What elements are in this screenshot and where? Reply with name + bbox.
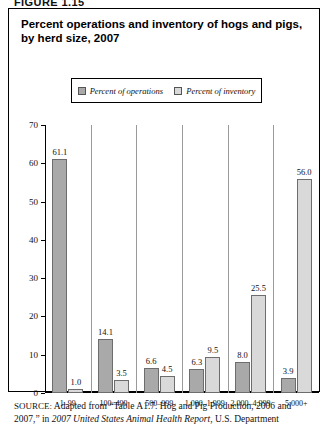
y-axis-tick-label: 70: [29, 120, 38, 130]
bar-group: 61.11.01–99: [45, 125, 91, 393]
group-separator: [273, 125, 274, 393]
bar-operations[interactable]: 6.6: [144, 368, 159, 393]
bar-value-label: 6.3: [192, 357, 203, 367]
group-separator: [91, 125, 92, 393]
bar-value-label: 14.1: [98, 327, 113, 337]
plot-area: 010203040506070 61.11.01–9914.13.5100–49…: [45, 125, 319, 393]
group-separator: [136, 125, 137, 393]
bar-inventory[interactable]: 9.5: [205, 357, 220, 393]
bar-group: 14.13.5100–499: [91, 125, 137, 393]
bar-group: 6.39.51,000–1,999: [182, 125, 228, 393]
legend-swatch-icon: [174, 87, 182, 95]
bar-value-label: 1.0: [71, 377, 82, 387]
bar-group: 3.956.05,000+: [273, 125, 319, 393]
y-axis-tick-label: 40: [29, 235, 38, 245]
bar-value-label: 8.0: [237, 350, 248, 360]
bar-value-label: 9.5: [208, 345, 219, 355]
figure-label: FIGURE 1.15: [14, 0, 84, 8]
y-axis-tick-label: 0: [34, 388, 39, 398]
legend-label: Percent of inventory: [186, 86, 255, 96]
bar-operations[interactable]: 14.1: [98, 339, 113, 393]
chart-legend: Percent of operations Percent of invento…: [71, 78, 262, 103]
bar-group: 8.025.52,000–4,999: [228, 125, 274, 393]
source-report-title: 2007 United States Animal Health Report: [52, 414, 210, 424]
bar-inventory[interactable]: 1.0: [68, 389, 83, 393]
bar-operations[interactable]: 61.1: [52, 159, 67, 393]
y-axis-tick-label: 20: [29, 311, 38, 321]
source-note: SOURCE: Adapted from “Table A1.7. Hog an…: [14, 400, 316, 425]
bar-group: 6.64.5500–999: [136, 125, 182, 393]
source-line2-b: , U.S. Department: [210, 414, 279, 424]
bar-value-label: 25.5: [251, 283, 266, 293]
bar-value-label: 6.6: [146, 356, 157, 366]
y-axis-tick: [41, 393, 45, 394]
bar-inventory[interactable]: 56.0: [297, 179, 312, 393]
bar-inventory[interactable]: 25.5: [251, 295, 266, 393]
group-separator: [228, 125, 229, 393]
y-axis-tick-label: 30: [29, 273, 38, 283]
source-line1: Adapted from “Table A1.7. Hog and Pig Pr…: [52, 401, 291, 411]
bar-value-label: 56.0: [297, 167, 312, 177]
bar-operations[interactable]: 6.3: [189, 369, 204, 393]
bar-inventory[interactable]: 3.5: [114, 380, 129, 393]
chart-title: Percent operations and inventory of hogs…: [21, 17, 306, 45]
bar-operations[interactable]: 8.0: [235, 362, 250, 393]
legend-swatch-icon: [78, 87, 86, 95]
bar-inventory[interactable]: 4.5: [160, 376, 175, 393]
bar-value-label: 3.5: [116, 368, 127, 378]
bar-operations[interactable]: 3.9: [281, 378, 296, 393]
bar-value-label: 61.1: [52, 147, 67, 157]
legend-label: Percent of operations: [90, 86, 163, 96]
y-axis-tick-label: 10: [29, 350, 38, 360]
group-separator: [182, 125, 183, 393]
legend-item-operations: Percent of operations: [78, 86, 163, 96]
source-prefix: SOURCE:: [14, 401, 52, 411]
legend-item-inventory: Percent of inventory: [174, 86, 255, 96]
figure-box: Percent operations and inventory of hogs…: [8, 8, 320, 392]
y-axis-tick-label: 60: [29, 158, 38, 168]
y-axis-tick-label: 50: [29, 197, 38, 207]
bar-value-label: 3.9: [283, 366, 294, 376]
bar-value-label: 4.5: [162, 364, 173, 374]
source-line2-a: 2007,” in: [14, 414, 52, 424]
